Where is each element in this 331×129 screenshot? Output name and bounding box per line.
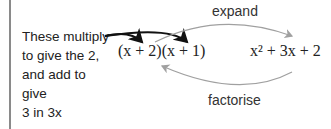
expand-arrow: [155, 24, 292, 42]
factorise-label: factorise: [208, 92, 261, 108]
factorise-arrow: [162, 66, 292, 85]
factored-expression: (x + 2)(x + 1): [118, 42, 205, 60]
expand-label: expand: [212, 3, 258, 19]
expanded-expression: x² + 3x + 2: [250, 42, 321, 60]
arrows: [0, 0, 331, 129]
